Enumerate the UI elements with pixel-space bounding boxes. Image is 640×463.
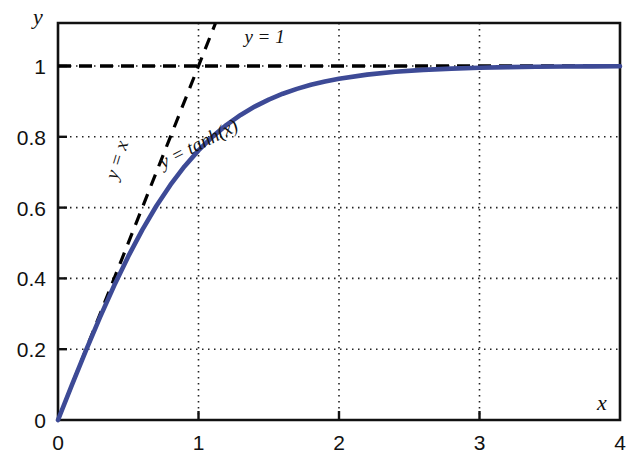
tanh-plot-svg: 01234 00.20.40.60.81 y x y = 1y = xy = t… bbox=[0, 0, 640, 463]
chart-figure: 01234 00.20.40.60.81 y x y = 1y = xy = t… bbox=[0, 0, 640, 463]
x-tick-label-4: 4 bbox=[614, 431, 626, 454]
x-tick-label-3: 3 bbox=[474, 431, 486, 454]
y-tick-label-0.4: 0.4 bbox=[17, 267, 47, 290]
x-tick-label-2: 2 bbox=[333, 431, 345, 454]
y-tick-label-0.8: 0.8 bbox=[17, 126, 46, 149]
y-tick-label-0.6: 0.6 bbox=[17, 197, 46, 220]
annotation-y-1: y = 1 bbox=[242, 26, 284, 47]
x-tick-label-0: 0 bbox=[52, 431, 64, 454]
chart-background bbox=[0, 0, 640, 463]
y-tick-label-1: 1 bbox=[34, 55, 46, 78]
x-tick-label-1: 1 bbox=[193, 431, 205, 454]
y-axis-label: y bbox=[31, 4, 43, 29]
y-tick-label-0: 0 bbox=[34, 409, 46, 432]
x-axis-label: x bbox=[596, 390, 607, 415]
y-tick-label-0.2: 0.2 bbox=[17, 338, 46, 361]
